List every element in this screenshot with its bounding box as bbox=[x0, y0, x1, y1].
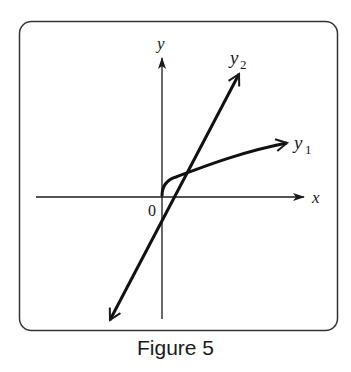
svg-text:y: y bbox=[228, 47, 239, 68]
origin-label: 0 bbox=[148, 202, 156, 219]
figure-caption: Figure 5 bbox=[0, 336, 351, 360]
x-axis-label: x bbox=[311, 188, 320, 207]
svg-text:y: y bbox=[292, 132, 303, 153]
label-y2: y 2 bbox=[228, 47, 247, 72]
y-axis-label: y bbox=[155, 34, 165, 53]
svg-text:1: 1 bbox=[305, 142, 312, 157]
label-y1: y 1 bbox=[292, 132, 312, 157]
figure-graph: y x 0 y 2 y 1 bbox=[0, 0, 351, 372]
svg-text:2: 2 bbox=[240, 57, 247, 72]
